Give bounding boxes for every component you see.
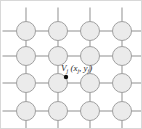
lattice-node (113, 47, 132, 66)
coord-x-subscript: j (77, 68, 79, 74)
coord-y-symbol: y (84, 63, 88, 73)
lattice-node (113, 102, 132, 121)
lattice-node (49, 102, 68, 121)
lattice-node (81, 74, 100, 93)
vertex-symbol: V (61, 63, 67, 73)
field-point-marker (64, 75, 68, 79)
lattice-node (17, 47, 36, 66)
lattice-mesh-figure: Vj (xj, yj) (0, 0, 142, 129)
lattice-node (17, 22, 36, 41)
vertex-coordinate-label: Vj (xj, yj) (61, 64, 92, 73)
lattice-node (17, 102, 36, 121)
close-paren: ) (89, 63, 92, 73)
vertex-subscript: j (67, 68, 69, 74)
lattice-node (81, 102, 100, 121)
lattice-node (17, 74, 36, 93)
lattice-node (113, 22, 132, 41)
lattice-node (81, 22, 100, 41)
lattice-node (49, 22, 68, 41)
lattice-node (113, 74, 132, 93)
